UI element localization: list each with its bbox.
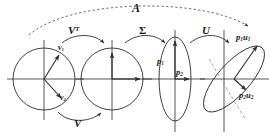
label-semi-axis-p1: p1 xyxy=(157,57,164,66)
stage4-minor-axis-dashed xyxy=(209,59,245,119)
label-p1-sub: 1 xyxy=(161,60,164,66)
label-overall-map-A: A xyxy=(132,2,140,14)
stage4-semiaxis-p2u2 xyxy=(234,79,246,90)
stage-rotated-circle xyxy=(76,40,152,120)
label-semi-axis-p2: p2 xyxy=(176,68,183,77)
label-p1u1-u-sub: 1 xyxy=(248,36,251,42)
label-v1-sub: 1 xyxy=(62,47,64,52)
arc-rotation-vt xyxy=(62,36,104,44)
svd-geometry-figure: A VT Σ U V v1 v2 p1 p2 p1u1 p2u2 xyxy=(0,0,269,138)
label-right-singular-vector-v2: v2 xyxy=(60,94,66,103)
arc-rotation-u xyxy=(190,36,229,44)
stage4-semiaxis-p1u1 xyxy=(234,46,257,79)
stage-scaled-ellipse xyxy=(142,30,205,132)
label-rotation-vt: VT xyxy=(68,25,80,36)
stage-rotated-ellipse xyxy=(194,30,269,132)
label-p2-sub: 2 xyxy=(180,71,183,77)
stage1-vector-v2 xyxy=(44,79,61,98)
label-rotation-u: U xyxy=(202,25,210,36)
label-output-axis-p1u1: p1u1 xyxy=(236,33,250,42)
label-rotation-vt-transpose: T xyxy=(75,25,79,32)
diagram-canvas xyxy=(0,0,269,138)
label-rotation-v: V xyxy=(74,118,81,129)
label-output-axis-p2u2: p2u2 xyxy=(239,91,253,100)
label-scaling-sigma: Σ xyxy=(139,25,146,36)
stage-unit-circle xyxy=(7,40,84,120)
label-p2u2-u-sub: 2 xyxy=(251,94,254,100)
arc-scaling-sigma xyxy=(125,36,165,44)
stage1-vector-v1 xyxy=(44,55,59,79)
label-right-singular-vector-v1: v1 xyxy=(58,44,64,53)
label-v2-sub: 2 xyxy=(64,97,66,102)
